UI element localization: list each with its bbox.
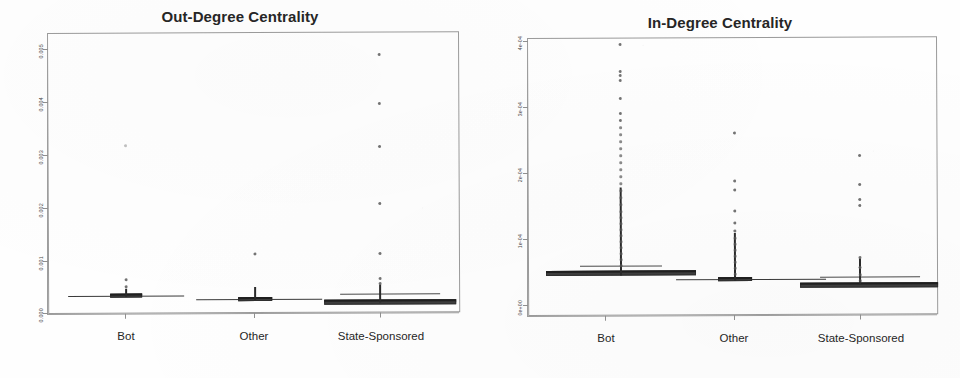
page-title: In-Degree Centrality <box>480 14 960 31</box>
box-cap-state <box>340 293 440 294</box>
outlier-point <box>620 258 623 261</box>
outlier-point <box>620 240 623 243</box>
outlier-point <box>734 261 737 264</box>
x-tick-state <box>860 315 861 320</box>
y-tick-label-2: 0.002 <box>37 203 43 218</box>
y-tick-label-3: 3e-04 <box>517 102 523 116</box>
outlier-point <box>253 253 256 256</box>
outlier-point <box>124 144 127 147</box>
box-stem-bot <box>125 289 127 297</box>
outlier-point <box>378 202 381 205</box>
x-label-state-sponsored: State-Sponsored <box>338 330 424 342</box>
outlier-point <box>619 140 622 143</box>
outlier-point <box>620 234 623 237</box>
plot-area-right <box>527 36 938 316</box>
x-label-bot: Bot <box>597 332 614 344</box>
x-tick-other <box>254 313 255 318</box>
outlier-point <box>125 285 128 288</box>
y-tick-label-4: 4e-04 <box>517 36 523 50</box>
panel-out-degree-centrality: Out-Degree Centrality 0.000 0.001 0.002 … <box>0 0 480 378</box>
panel-in-degree-centrality: In-Degree Centrality 0e+00 1e-04 2e-04 3… <box>480 0 960 378</box>
outlier-point <box>619 126 622 129</box>
outlier-point <box>378 53 381 56</box>
outlier-point <box>620 252 623 255</box>
x-label-other: Other <box>720 332 749 344</box>
outlier-point <box>619 70 622 73</box>
x-tick-bot <box>125 314 126 319</box>
outlier-point <box>620 264 623 267</box>
x-label-other: Other <box>240 330 269 342</box>
outlier-point <box>619 189 622 192</box>
outlier-point <box>734 249 737 252</box>
outlier-point <box>619 161 622 164</box>
outlier-point <box>733 189 736 192</box>
x-axis-left <box>47 312 459 322</box>
outlier-point <box>619 97 622 100</box>
x-label-state-sponsored: State-Sponsored <box>818 332 904 344</box>
outlier-point <box>734 237 737 240</box>
outlier-point <box>378 102 381 105</box>
outlier-point <box>619 79 622 82</box>
figure-canvas: Out-Degree Centrality 0.000 0.001 0.002 … <box>0 0 960 378</box>
outlier-point <box>619 182 622 185</box>
outlier-point <box>619 175 622 178</box>
outlier-point <box>619 119 622 122</box>
y-tick-label-0: 0e+00 <box>517 300 523 316</box>
outlier-point <box>619 203 622 206</box>
y-tick-label-0: 0.000 <box>37 308 43 323</box>
outlier-point <box>733 210 736 213</box>
outlier-point <box>734 273 737 276</box>
outlier-point <box>619 43 622 46</box>
outlier-point <box>379 277 382 280</box>
outlier-point <box>378 252 381 255</box>
outlier-point <box>619 216 622 219</box>
box-stem-state <box>379 285 381 303</box>
box-stem-bot <box>620 188 622 276</box>
x-axis-right <box>527 314 937 324</box>
y-tick-label-5: 0.005 <box>37 44 43 59</box>
outlier-point <box>379 282 382 285</box>
outlier-point <box>734 255 737 258</box>
outlier-point <box>378 145 381 148</box>
outlier-point <box>733 222 736 225</box>
outlier-point <box>858 198 861 201</box>
outlier-point <box>619 74 622 77</box>
outlier-point <box>734 267 737 270</box>
outlier-point <box>858 154 861 157</box>
outlier-point <box>619 133 622 136</box>
x-tick-state <box>380 313 381 318</box>
y-tick-label-1: 0.001 <box>37 256 43 271</box>
outlier-point <box>620 222 623 225</box>
box-stem-other <box>254 287 256 300</box>
outlier-point <box>619 168 622 171</box>
outlier-point <box>125 278 128 281</box>
y-tick-label-1: 1e-04 <box>517 234 523 248</box>
outlier-point <box>733 230 736 233</box>
outlier-point <box>858 204 861 207</box>
y-tick-label-3: 0.003 <box>37 150 43 165</box>
x-label-bot: Bot <box>117 330 134 342</box>
x-tick-bot <box>605 316 606 321</box>
outlier-point <box>858 183 861 186</box>
outlier-point <box>619 210 622 213</box>
y-tick-label-4: 0.004 <box>37 97 43 112</box>
outlier-point <box>733 132 736 135</box>
plot-area-left <box>47 31 460 314</box>
outlier-point <box>619 196 622 199</box>
outlier-point <box>619 112 622 115</box>
outlier-point <box>859 273 862 276</box>
outlier-point <box>858 266 861 269</box>
y-tick-label-2: 2e-04 <box>517 168 523 182</box>
outlier-point <box>733 180 736 183</box>
box-cap-state <box>820 276 920 277</box>
x-tick-other <box>734 315 735 320</box>
outlier-point <box>858 256 861 259</box>
outlier-point <box>619 147 622 150</box>
outlier-point <box>734 243 737 246</box>
outlier-point <box>859 279 862 282</box>
outlier-point <box>619 154 622 157</box>
outlier-point <box>620 246 623 249</box>
outlier-point <box>620 228 623 231</box>
page-title: Out-Degree Centrality <box>0 8 480 25</box>
